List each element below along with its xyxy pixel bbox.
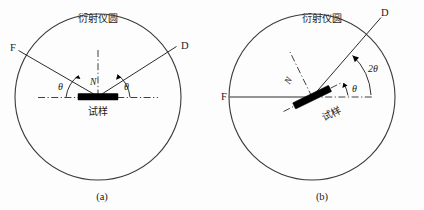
theta-label-b: θ (352, 83, 357, 94)
panel-b: 衍射仪圆 F D N θ 2θ 试样 (b) (221, 7, 395, 203)
detector-label-b: D (381, 7, 389, 18)
sample-plate-a (78, 94, 118, 101)
diffractometer-diagram: 衍射仪圆 F D N θ θ 试样 (a) (0, 0, 424, 210)
two-theta-label-b: 2θ (368, 63, 378, 74)
sample-label-b: 试样 (320, 104, 343, 124)
sample-label-a: 试样 (88, 105, 108, 117)
source-label-a: F (10, 42, 16, 53)
caption-b: (b) (316, 191, 329, 203)
detector-label-a: D (181, 40, 189, 51)
normal-label-b: N (282, 75, 295, 87)
diffracted-ray-a (98, 47, 177, 97)
caption-a: (a) (96, 191, 108, 203)
figure-root: 衍射仪圆 F D N θ θ 试样 (a) (0, 0, 424, 210)
theta-left-label-a: θ (58, 81, 63, 92)
source-label-b: F (221, 91, 227, 102)
circle-label-b: 衍射仪圆 (302, 12, 342, 24)
normal-label-a: N (89, 77, 97, 87)
theta-right-label-a: θ (124, 81, 129, 92)
normal-line-b (290, 52, 312, 97)
theta-arrowhead-b (342, 83, 347, 88)
panel-a: 衍射仪圆 F D N θ θ 试样 (a) (10, 12, 189, 203)
circle-label-a: 衍射仪圆 (78, 12, 118, 24)
